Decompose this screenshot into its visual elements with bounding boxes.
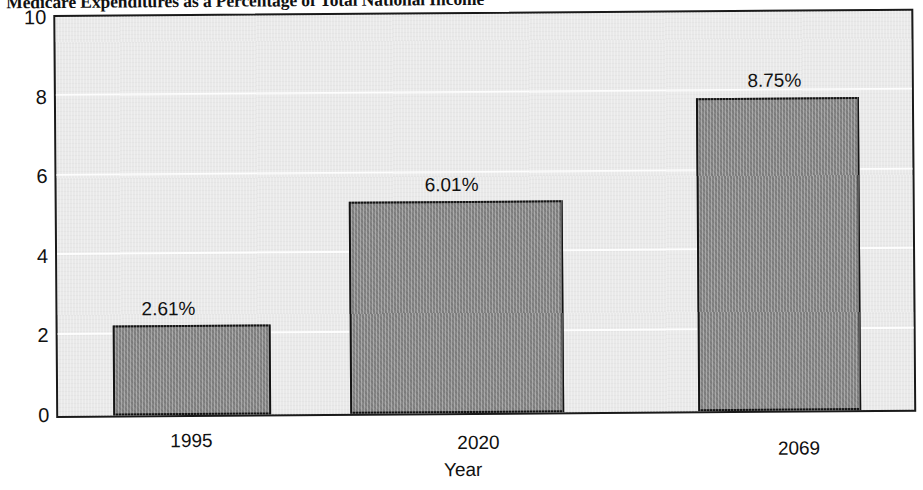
x-tick-label-1995: 1995: [111, 429, 271, 452]
bar-1995[interactable]: [113, 324, 272, 415]
x-axis-title: Year: [2, 456, 923, 485]
bar-value-label-2020: 6.01%: [344, 173, 558, 197]
x-tick-label-2020: 2020: [371, 431, 585, 455]
y-tick-label: 10: [0, 7, 46, 27]
y-tick-label: 8: [1, 87, 47, 107]
bar-value-label-1995: 2.61%: [88, 298, 248, 321]
bar-2069[interactable]: [696, 97, 861, 411]
y-tick-label: 0: [3, 405, 49, 425]
y-tick-label: 6: [1, 166, 47, 186]
bar-value-label-2069: 8.75%: [693, 69, 856, 92]
chart-canvas: Medicare Expenditures as a Percentage of…: [0, 0, 923, 490]
y-tick-label: 2: [3, 325, 49, 345]
bar-2020[interactable]: [349, 200, 565, 414]
y-tick-label: 4: [2, 246, 48, 266]
y-axis-tick-labels: 10 8 6 4 2 0: [0, 3, 50, 490]
